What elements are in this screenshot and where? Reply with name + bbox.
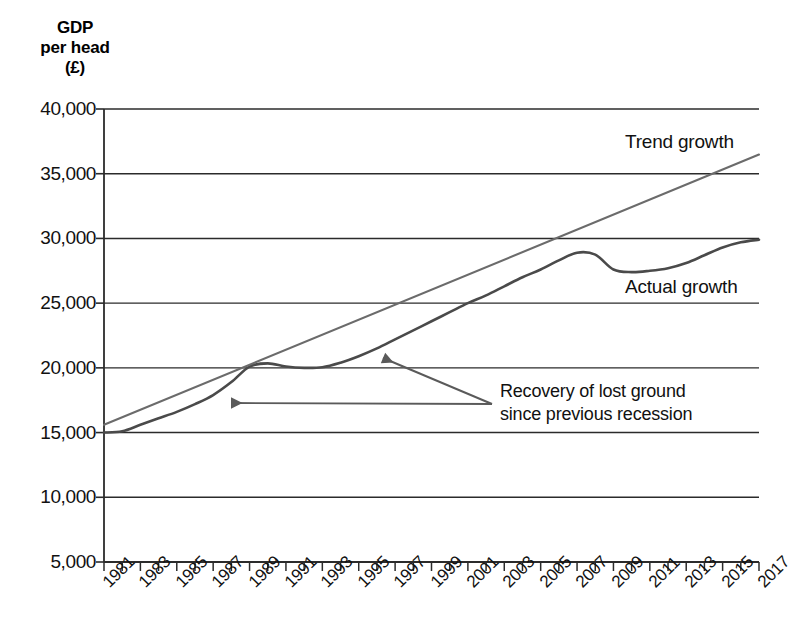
annotation-arrows (231, 358, 492, 404)
axis-lines (104, 109, 759, 562)
gridlines (104, 109, 759, 562)
annotation-recovery-text: Recovery of lost ground since previous r… (500, 380, 692, 426)
series-label-actual-growth: Actual growth (625, 276, 738, 298)
annotation-arrow (231, 403, 492, 404)
y-axis-ticks (96, 109, 104, 562)
series-label-trend-growth: Trend growth (625, 131, 734, 153)
annotation-arrow (383, 358, 492, 404)
